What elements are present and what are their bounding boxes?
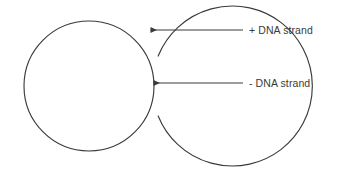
inner-circle-minus-strand (24, 21, 154, 151)
label-minus-dna-strand: - DNA strand (249, 77, 310, 89)
label-plus-dna-strand: + DNA strand (249, 24, 313, 36)
diagram-canvas: + DNA strand - DNA strand (0, 0, 337, 183)
